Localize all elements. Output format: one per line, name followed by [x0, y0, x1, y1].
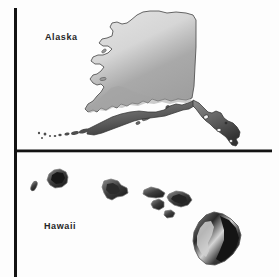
alaska-panel-label: Alaska — [45, 32, 78, 42]
island-niihau — [30, 180, 39, 192]
hawaii-panel-graphics — [30, 169, 241, 265]
island-kahoolawe — [164, 210, 175, 218]
map-figure: Alaska Hawaii — [0, 0, 279, 277]
aleutian-island — [49, 135, 51, 137]
map-graphic — [0, 0, 279, 277]
panhandle-inlet — [229, 140, 233, 143]
island-molokai — [143, 187, 165, 198]
aleutian-island — [44, 132, 47, 135]
aleutian-islands — [38, 128, 90, 139]
hawaii-panel-label: Hawaii — [44, 221, 76, 231]
offshore-island — [101, 48, 107, 53]
aleutian-island — [38, 132, 40, 134]
alaska-panhandle — [193, 100, 240, 146]
offshore-island — [135, 121, 140, 125]
aleutian-island — [54, 135, 57, 137]
aleutian-island — [64, 132, 70, 136]
aleutian-island — [41, 137, 43, 139]
panhandle-island — [225, 122, 228, 124]
aleutian-island — [58, 134, 61, 137]
panhandle-inlet — [217, 128, 221, 131]
island-lanai — [151, 199, 164, 210]
aleutian-island — [71, 130, 80, 135]
horizontal-rule — [14, 150, 272, 153]
vertical-rule — [14, 8, 17, 277]
